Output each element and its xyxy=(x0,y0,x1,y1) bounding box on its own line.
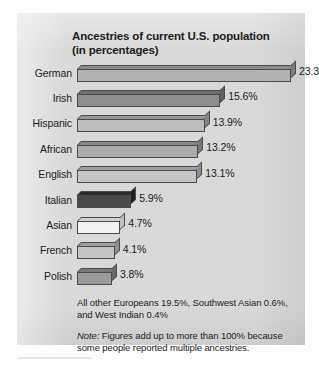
bar-value-label: 13.2% xyxy=(206,141,235,153)
bar-category-label: English xyxy=(17,168,72,180)
footnote-note: Note: Figures add up to more than 100% b… xyxy=(77,330,305,353)
bar-value-label: 4.1% xyxy=(123,243,147,255)
bar-value-label: 5.9% xyxy=(139,192,163,204)
bar-row: Irish15.6% xyxy=(17,85,305,110)
bar-front-face xyxy=(77,170,197,183)
bar-front-face xyxy=(77,69,291,82)
bar-italian xyxy=(77,191,131,208)
bar-front-face xyxy=(77,221,120,234)
footnote-note-text: Figures add up to more than 100% because… xyxy=(77,330,283,353)
bar-row: African13.2% xyxy=(17,136,305,161)
bar-english xyxy=(77,166,197,183)
bar-category-label: German xyxy=(17,67,72,79)
bar-front-face xyxy=(77,246,115,259)
bar-row: Hispanic13.9% xyxy=(17,111,305,136)
chart-panel: Ancestries of current U.S. population (i… xyxy=(17,13,305,345)
bar-value-label: 13.9% xyxy=(213,116,242,128)
bar-row: English13.1% xyxy=(17,162,305,187)
bar-value-label: 4.7% xyxy=(128,217,152,229)
bar-french xyxy=(77,242,115,259)
chart-title-line1: Ancestries of current U.S. population xyxy=(72,30,270,42)
bar-hispanic xyxy=(77,115,205,132)
bar-front-face xyxy=(77,272,112,285)
bar-row: Polish3.8% xyxy=(17,263,305,288)
bar-front-face xyxy=(77,94,220,107)
bar-row: French4.1% xyxy=(17,238,305,263)
bar-african xyxy=(77,141,198,158)
scanned-page: Ancestries of current U.S. population (i… xyxy=(0,0,319,371)
page-rule xyxy=(18,357,92,359)
bar-chart-plot: German23.3%Irish15.6%Hispanic13.9%Africa… xyxy=(17,60,305,288)
footnote-other-ancestries: All other Europeans 19.5%, Southwest Asi… xyxy=(77,297,305,320)
bar-category-label: African xyxy=(17,143,72,155)
bar-value-label: 13.1% xyxy=(205,167,234,179)
footnote-note-label: Note: xyxy=(77,330,99,341)
bar-front-face xyxy=(77,195,131,208)
bar-category-label: Asian xyxy=(17,219,72,231)
bar-category-label: Hispanic xyxy=(17,117,72,129)
bar-row: German23.3% xyxy=(17,60,305,85)
bar-side-face xyxy=(197,162,202,179)
bar-side-face xyxy=(120,213,125,230)
bar-irish xyxy=(77,90,220,107)
bar-side-face xyxy=(198,137,203,154)
chart-title-line2: (in percentages) xyxy=(72,44,297,58)
bar-front-face xyxy=(77,145,198,158)
bar-side-face xyxy=(220,86,225,103)
bar-side-face xyxy=(115,238,120,255)
bar-side-face xyxy=(291,60,296,77)
bar-category-label: Italian xyxy=(17,194,72,206)
bar-category-label: Polish xyxy=(17,270,72,282)
bar-german xyxy=(77,65,291,82)
bar-row: Italian5.9% xyxy=(17,187,305,212)
bar-side-face xyxy=(131,187,136,204)
bar-asian xyxy=(77,217,120,234)
bar-polish xyxy=(77,268,112,285)
bar-category-label: Irish xyxy=(17,92,72,104)
bar-value-label: 15.6% xyxy=(228,90,257,102)
bar-side-face xyxy=(112,264,117,281)
bar-value-label: 3.8% xyxy=(120,268,144,280)
bar-value-label: 23.3% xyxy=(299,65,319,77)
bar-row: Asian4.7% xyxy=(17,212,305,237)
bar-category-label: French xyxy=(17,244,72,256)
bar-front-face xyxy=(77,119,205,132)
bar-side-face xyxy=(205,111,210,128)
chart-title: Ancestries of current U.S. population (i… xyxy=(72,30,297,57)
